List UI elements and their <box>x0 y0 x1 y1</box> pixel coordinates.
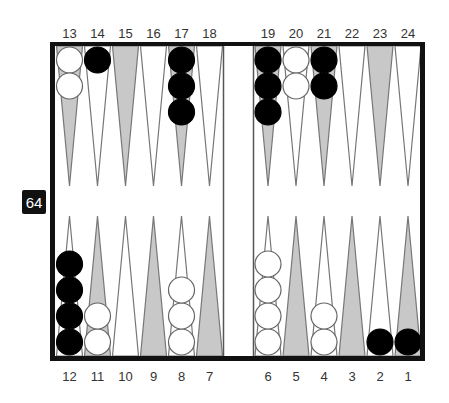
white-checker-point-6[interactable] <box>255 251 281 277</box>
point-label-13: 13 <box>62 26 76 41</box>
point-label-21: 21 <box>317 26 331 41</box>
black-checker-point-21[interactable] <box>311 47 337 73</box>
point-label-14: 14 <box>90 26 104 41</box>
white-checker-point-13[interactable] <box>57 47 83 73</box>
point-label-1: 1 <box>404 369 411 384</box>
black-checker-point-19[interactable] <box>255 73 281 99</box>
white-checker-point-6[interactable] <box>255 277 281 303</box>
point-label-15: 15 <box>118 26 132 41</box>
white-checker-point-6[interactable] <box>255 329 281 355</box>
white-checker-point-11[interactable] <box>85 303 111 329</box>
point-label-5: 5 <box>292 369 299 384</box>
white-checker-point-20[interactable] <box>283 73 309 99</box>
white-checker-point-8[interactable] <box>169 303 195 329</box>
white-checker-point-13[interactable] <box>57 73 83 99</box>
white-checker-point-4[interactable] <box>311 303 337 329</box>
black-checker-point-19[interactable] <box>255 47 281 73</box>
black-checker-point-19[interactable] <box>255 99 281 125</box>
point-label-22: 22 <box>345 26 359 41</box>
point-label-17: 17 <box>174 26 188 41</box>
top-point-labels: 131415161718192021222324 <box>62 26 415 41</box>
point-label-16: 16 <box>146 26 160 41</box>
black-checker-point-12[interactable] <box>57 329 83 355</box>
black-checker-point-14[interactable] <box>85 47 111 73</box>
doubling-cube[interactable]: 64 <box>22 190 46 214</box>
point-label-18: 18 <box>202 26 216 41</box>
point-label-19: 19 <box>261 26 275 41</box>
point-label-11: 11 <box>91 369 105 384</box>
point-label-7: 7 <box>206 369 213 384</box>
point-label-23: 23 <box>373 26 387 41</box>
backgammon-board: 131415161718192021222324 121110987654321… <box>0 0 449 403</box>
point-label-2: 2 <box>376 369 383 384</box>
point-label-4: 4 <box>320 369 327 384</box>
black-checker-point-2[interactable] <box>367 329 393 355</box>
black-checker-point-17[interactable] <box>169 99 195 125</box>
black-checker-point-12[interactable] <box>57 251 83 277</box>
white-checker-point-8[interactable] <box>169 277 195 303</box>
white-checker-point-6[interactable] <box>255 303 281 329</box>
black-checker-point-17[interactable] <box>169 47 195 73</box>
white-checker-point-20[interactable] <box>283 47 309 73</box>
point-label-24: 24 <box>401 26 415 41</box>
point-label-20: 20 <box>289 26 303 41</box>
point-label-10: 10 <box>118 369 132 384</box>
point-label-3: 3 <box>348 369 355 384</box>
point-label-9: 9 <box>150 369 157 384</box>
bottom-point-labels: 121110987654321 <box>62 369 411 384</box>
point-label-8: 8 <box>178 369 185 384</box>
black-checker-point-12[interactable] <box>57 277 83 303</box>
point-label-6: 6 <box>264 369 271 384</box>
point-label-12: 12 <box>62 369 76 384</box>
black-checker-point-17[interactable] <box>169 73 195 99</box>
black-checker-point-1[interactable] <box>395 329 421 355</box>
cube-value: 64 <box>26 194 43 211</box>
white-checker-point-11[interactable] <box>85 329 111 355</box>
white-checker-point-8[interactable] <box>169 329 195 355</box>
black-checker-point-12[interactable] <box>57 303 83 329</box>
white-checker-point-4[interactable] <box>311 329 337 355</box>
black-checker-point-21[interactable] <box>311 73 337 99</box>
